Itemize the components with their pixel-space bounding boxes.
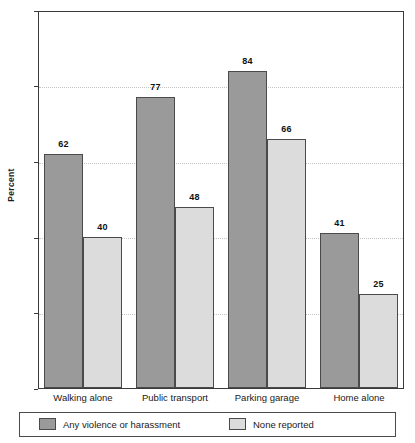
category-label-walking-alone: Walking alone (44, 392, 122, 403)
bar-home-alone-none-reported[interactable] (359, 294, 398, 388)
y-axis-title: Percent (6, 155, 16, 215)
legend-label-none-reported: None reported (253, 419, 314, 430)
category-label-home-alone: Home alone (320, 392, 398, 403)
legend-swatch-any-violence (39, 418, 56, 430)
bar-public-transport-none-reported[interactable] (175, 207, 214, 388)
bar-chart: Percent 100 80 60 40 20 0 62 40 77 48 84… (0, 0, 415, 400)
bar-walking-alone-none-reported[interactable] (83, 237, 122, 388)
bar-value-parking-garage-none-reported: 66 (267, 124, 306, 134)
plot-frame (38, 11, 404, 389)
category-label-parking-garage: Parking garage (228, 392, 306, 403)
gridline-80 (39, 87, 403, 88)
y-tick-mark-0 (34, 389, 38, 390)
bar-value-walking-alone-none-reported: 40 (83, 222, 122, 232)
bar-walking-alone-any-violence[interactable] (44, 154, 83, 388)
bar-value-home-alone-none-reported: 25 (359, 279, 398, 289)
legend-label-any-violence: Any violence or harassment (63, 419, 180, 430)
category-label-public-transport: Public transport (136, 392, 214, 403)
bar-home-alone-any-violence[interactable] (320, 233, 359, 388)
bar-value-walking-alone-any-violence: 62 (44, 139, 83, 149)
bar-public-transport-any-violence[interactable] (136, 97, 175, 388)
bar-value-public-transport-none-reported: 48 (175, 192, 214, 202)
bar-parking-garage-any-violence[interactable] (228, 71, 267, 388)
legend-item-none-reported[interactable]: None reported (229, 418, 314, 430)
legend-swatch-none-reported (229, 418, 246, 430)
bar-value-public-transport-any-violence: 77 (136, 82, 175, 92)
bar-parking-garage-none-reported[interactable] (267, 139, 306, 388)
bar-value-home-alone-any-violence: 41 (320, 218, 359, 228)
legend: Any violence or harassment None reported (19, 412, 396, 437)
legend-item-any-violence[interactable]: Any violence or harassment (39, 418, 180, 430)
gridline-60 (39, 163, 403, 164)
bar-value-parking-garage-any-violence: 84 (228, 56, 267, 66)
